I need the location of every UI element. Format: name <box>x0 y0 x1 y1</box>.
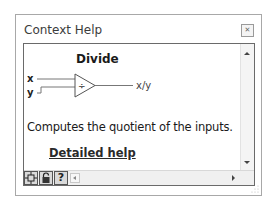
detailed-help-link[interactable]: Detailed help <box>49 146 136 160</box>
scroll-up-icon[interactable] <box>244 52 250 55</box>
detailed-help-button[interactable]: ? <box>54 171 68 185</box>
question-icon: ? <box>58 171 64 184</box>
scroll-left-icon[interactable] <box>70 173 80 183</box>
function-description: Computes the quotient of the inputs. <box>27 120 233 134</box>
lock-context-help-button[interactable] <box>39 171 53 185</box>
output-label: x/y <box>136 80 151 91</box>
lock-icon <box>40 172 52 184</box>
context-help-window: Context Help ✕ Divide x y ÷ x/y Computes… <box>15 14 262 196</box>
input-y-label: y <box>27 87 34 98</box>
scroll-right-icon[interactable] <box>232 175 235 181</box>
divide-symbol: ÷ <box>78 81 86 91</box>
resize-grip-icon[interactable] <box>251 185 259 193</box>
close-button[interactable]: ✕ <box>241 24 254 37</box>
close-icon: ✕ <box>245 26 251 34</box>
help-toolbar: ? <box>24 170 254 185</box>
function-title: Divide <box>76 52 119 66</box>
help-content-pane: Divide x y ÷ x/y Computes the quotient o… <box>23 43 255 186</box>
input-x-label: x <box>27 73 34 84</box>
window-title: Context Help <box>24 23 102 37</box>
scroll-down-icon[interactable] <box>244 161 250 164</box>
vertical-scrollbar[interactable] <box>240 44 254 171</box>
terminals-icon <box>25 172 37 184</box>
show-optional-terminals-button[interactable] <box>24 171 38 185</box>
divide-function-diagram: x y ÷ x/y <box>27 72 177 106</box>
